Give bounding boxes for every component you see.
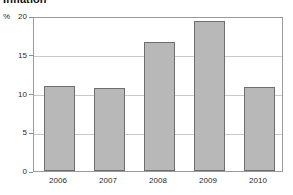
x-tick-label: 2010	[233, 176, 283, 185]
chart-figure: Inflation % 05101520 2006200720082009201…	[0, 0, 293, 195]
y-tick-label: 5	[1, 129, 27, 137]
x-tick-label: 2008	[133, 176, 183, 185]
bar-2008	[144, 42, 175, 171]
y-tick-label: 15	[1, 52, 27, 60]
y-tick-label: 20	[1, 13, 27, 21]
y-tick-mark	[29, 55, 33, 56]
y-tick-label: 10	[1, 91, 27, 99]
y-tick-mark	[29, 17, 33, 18]
x-tick-label: 2009	[183, 176, 233, 185]
bar-2006	[44, 86, 75, 171]
bar-2009	[194, 21, 225, 171]
y-tick-mark	[29, 172, 33, 173]
plot-area	[33, 17, 283, 172]
y-tick-mark	[29, 133, 33, 134]
y-tick-label: 0	[1, 168, 27, 176]
x-tick-label: 2007	[83, 176, 133, 185]
x-tick-label: 2006	[33, 176, 83, 185]
y-tick-mark	[29, 94, 33, 95]
bar-2007	[94, 88, 125, 171]
chart-title: Inflation	[3, 0, 47, 5]
bar-2010	[244, 87, 275, 171]
